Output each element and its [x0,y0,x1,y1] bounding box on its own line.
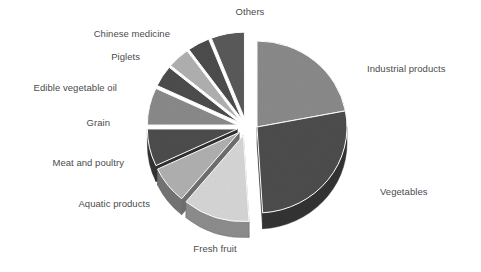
pie-slices [147,32,347,237]
pie-chart-figure: Others Chinese medicine Piglets Edible v… [0,0,481,272]
slice-label-others: Others [195,6,305,17]
slice-label-chinese-medicine: Chinese medicine [0,28,170,39]
pie-chart-canvas [0,0,481,272]
slice-label-edible-vegetable-oil: Edible vegetable oil [0,82,117,93]
slice-label-grain: Grain [0,117,110,128]
slice-label-vegetables: Vegetables [380,186,481,197]
slice-label-industrial-products: Industrial products [367,63,481,74]
slice-label-fresh-fruit: Fresh fruit [160,243,270,254]
slice-label-piglets: Piglets [0,51,140,62]
slice-label-meat-and-poultry: Meat and poultry [0,157,124,168]
slice-label-aquatic-products: Aquatic products [0,198,150,209]
pie-slice-vegetables [257,111,347,213]
